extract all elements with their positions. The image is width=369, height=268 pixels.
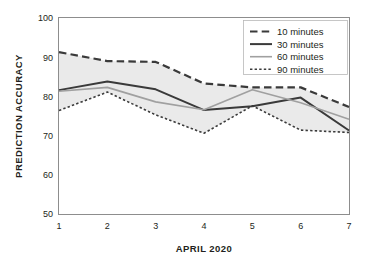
y-tick-label: 90 xyxy=(43,53,53,63)
x-axis-title: APRIL 2020 xyxy=(176,243,233,254)
y-tick-label: 100 xyxy=(38,13,53,23)
x-tick-label: 1 xyxy=(56,221,61,231)
legend-label-10-minutes: 10 minutes xyxy=(277,26,324,37)
x-tick-label: 6 xyxy=(298,221,303,231)
y-tick-label: 60 xyxy=(43,170,53,180)
x-tick-label: 3 xyxy=(153,221,158,231)
y-tick-label: 80 xyxy=(43,92,53,102)
chart-legend[interactable]: 10 minutes30 minutes60 minutes90 minutes xyxy=(244,21,348,75)
legend-label-30-minutes: 30 minutes xyxy=(277,39,324,50)
y-tick-label: 70 xyxy=(43,131,53,141)
chart-figure: 5060708090100 1234567 PREDICTION ACCURAC… xyxy=(0,0,369,268)
x-tick-label: 4 xyxy=(201,221,206,231)
y-tick-label: 50 xyxy=(43,209,53,219)
x-tick-label: 2 xyxy=(105,221,110,231)
line-chart: 5060708090100 1234567 PREDICTION ACCURAC… xyxy=(0,0,369,268)
legend-label-60-minutes: 60 minutes xyxy=(277,51,324,62)
y-axis-title: PREDICTION ACCURACY xyxy=(13,54,24,178)
x-tick-label: 5 xyxy=(250,221,255,231)
legend-label-90-minutes: 90 minutes xyxy=(277,64,324,75)
x-tick-label: 7 xyxy=(346,221,351,231)
